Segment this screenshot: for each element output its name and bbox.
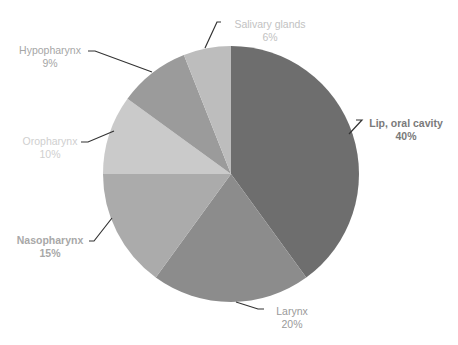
leader-line [89,218,112,241]
label-salivary-glands: Salivary glands 6% [222,18,318,44]
slice-label: Oropharynx [12,135,88,148]
label-larynx: Larynx 20% [262,305,322,331]
label-hypopharynx: Hypopharynx 9% [10,44,90,70]
slice-value: 40% [356,130,456,143]
slice-label: Hypopharynx [10,44,90,57]
slice-label: Nasopharynx [10,234,90,247]
leader-line [88,51,152,72]
label-nasopharynx: Nasopharynx 15% [10,234,90,260]
slice-value: 20% [262,318,322,331]
slice-value: 9% [10,57,90,70]
label-lip-oral-cavity: Lip, oral cavity 40% [356,117,456,143]
leader-line [205,22,221,48]
slice-label: Larynx [262,305,322,318]
slice-label: Salivary glands [222,18,318,31]
slice-value: 10% [12,148,88,161]
slice-value: 6% [222,31,318,44]
leader-line [236,302,264,309]
slice-value: 15% [10,247,90,260]
slice-label: Lip, oral cavity [356,117,456,130]
label-oropharynx: Oropharynx 10% [12,135,88,161]
